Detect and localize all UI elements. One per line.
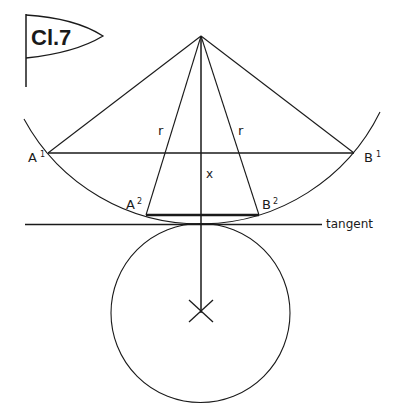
geometry-diagram: Cl.7 A1 B1 A2 B2 r r x tangent <box>0 0 400 417</box>
plate-label: Cl.7 <box>31 25 71 50</box>
radius-left <box>146 36 201 215</box>
label-tangent: tangent <box>326 217 373 231</box>
line-apex-a1 <box>48 36 201 153</box>
plate-flag: Cl.7 <box>26 14 103 87</box>
label-x: x <box>206 167 213 181</box>
radius-right <box>201 36 259 215</box>
label-a2: A2 <box>126 197 142 212</box>
label-r-right: r <box>238 123 244 138</box>
label-a1: A1 <box>28 150 45 165</box>
line-apex-b1 <box>201 36 354 153</box>
label-r-left: r <box>158 123 164 138</box>
label-b1: B1 <box>364 150 381 165</box>
large-arc <box>24 112 380 224</box>
